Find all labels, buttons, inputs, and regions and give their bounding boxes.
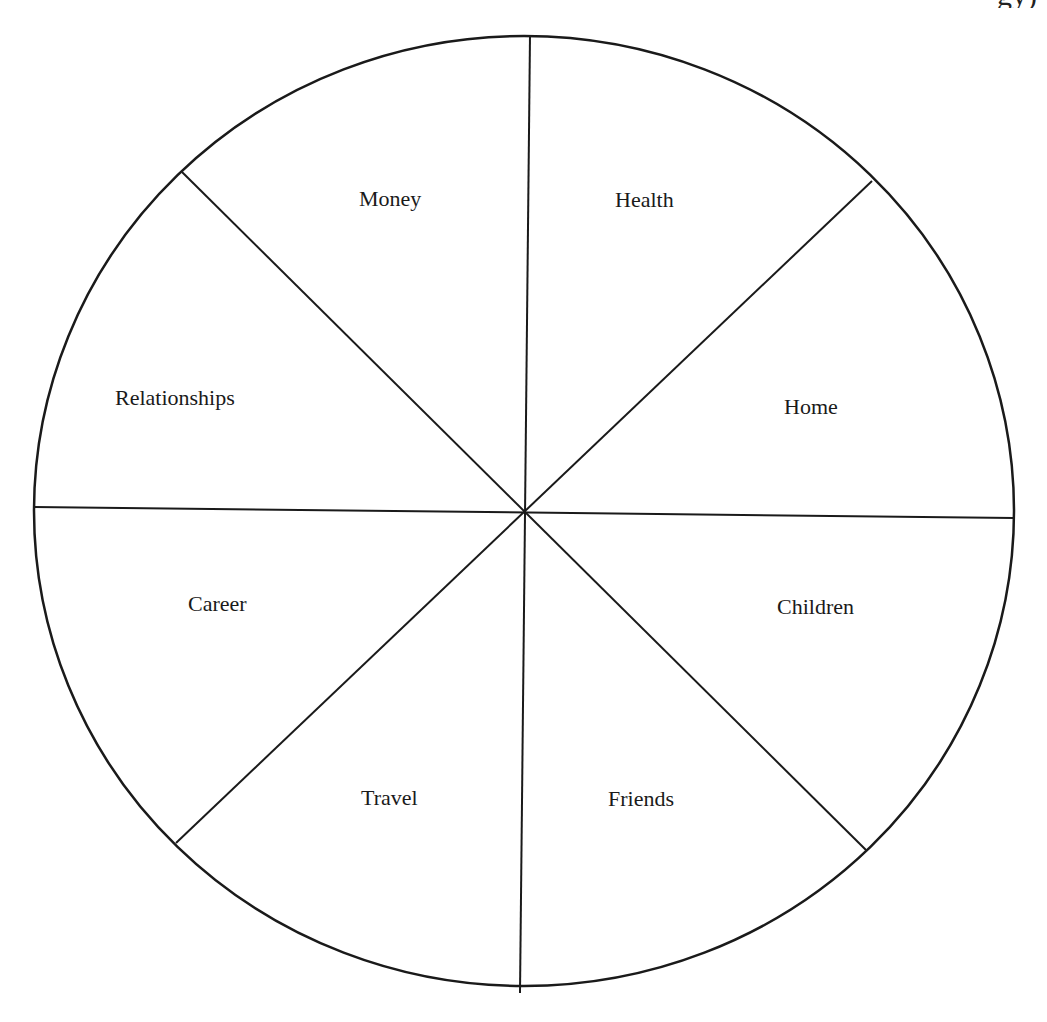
segment-label-career: Career xyxy=(188,591,247,616)
spoke-diagonal-upright-downleft xyxy=(176,181,872,843)
segment-label-children: Children xyxy=(777,594,854,619)
segment-label-travel: Travel xyxy=(361,785,418,810)
segment-label-home: Home xyxy=(784,394,838,419)
segment-label-relationships: Relationships xyxy=(115,385,235,410)
segment-label-health: Health xyxy=(615,187,674,212)
segment-label-money: Money xyxy=(359,186,421,211)
segment-label-friends: Friends xyxy=(608,786,674,811)
life-wheel-diagram: Money Health Relationships Home Career C… xyxy=(0,0,1047,1022)
